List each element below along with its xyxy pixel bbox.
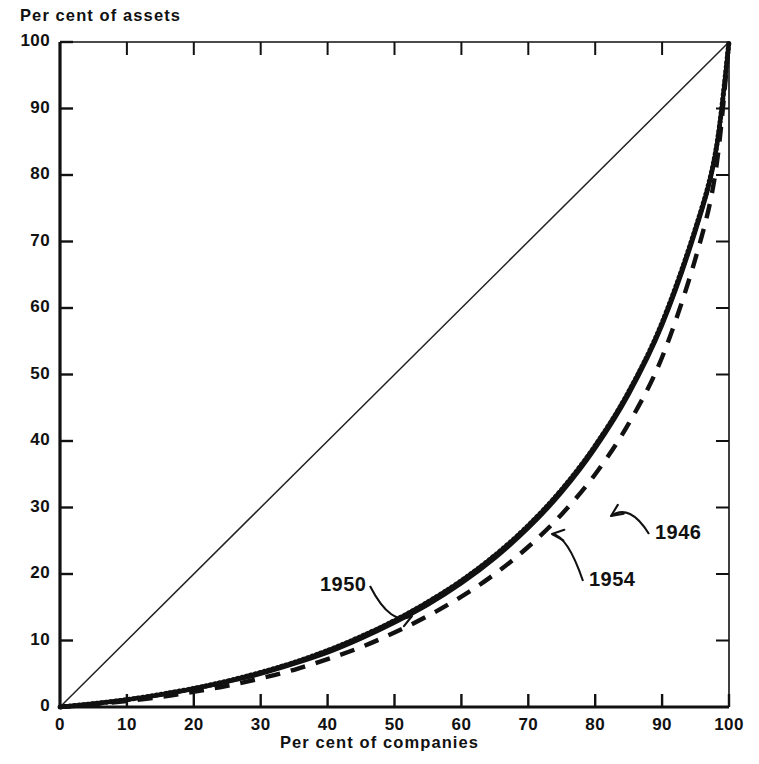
y-tick-label: 60: [4, 297, 50, 317]
annotation-leaders-group: [370, 505, 649, 626]
annotation-label-1946: 1946: [655, 521, 702, 544]
x-tick-label: 80: [565, 715, 625, 735]
y-tick-label: 70: [4, 231, 50, 251]
x-tick-label: 20: [164, 715, 224, 735]
y-tick-label: 0: [4, 696, 50, 716]
x-tick-label: 10: [97, 715, 157, 735]
y-tick-label: 40: [4, 430, 50, 450]
x-tick-label: 30: [231, 715, 291, 735]
x-tick-label: 70: [498, 715, 558, 735]
line-of-equality: [60, 42, 729, 707]
x-tick-label: 90: [632, 715, 692, 735]
annotation-leader-1954: [552, 534, 583, 581]
x-tick-label: 100: [699, 715, 759, 735]
y-tick-label: 50: [4, 364, 50, 384]
y-tick-label: 80: [4, 164, 50, 184]
y-tick-label: 100: [4, 31, 50, 51]
y-tick-label: 10: [4, 630, 50, 650]
y-tick-label: 20: [4, 563, 50, 583]
reference-line-group: [60, 42, 729, 707]
y-tick-label: 90: [4, 98, 50, 118]
x-axis-title: Per cent of companies: [0, 733, 759, 752]
y-axis-title: Per cent of assets: [20, 6, 181, 25]
x-tick-label: 40: [298, 715, 358, 735]
annotation-label-1954: 1954: [589, 568, 636, 591]
annotation-arrowhead-1946: [611, 505, 624, 516]
x-tick-label: 0: [30, 715, 90, 735]
x-tick-label: 60: [431, 715, 491, 735]
lorenz-curve-figure: Per cent of assets 010203040506070809010…: [0, 0, 759, 764]
plot-canvas: [0, 0, 759, 764]
annotation-label-1950: 1950: [320, 573, 367, 596]
y-tick-label: 30: [4, 497, 50, 517]
x-tick-label: 50: [365, 715, 425, 735]
